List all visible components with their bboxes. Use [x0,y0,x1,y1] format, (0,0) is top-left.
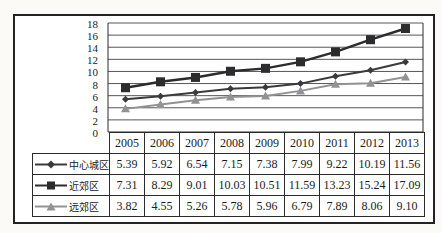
y-axis-tick-label: 2 [60,116,98,127]
scanned-chart-page: 181614121086420 200520062007200820092010… [0,0,442,233]
table-corner-blank [33,133,110,154]
value-cell: 7.15 [215,154,250,175]
year-header-cell: 2008 [215,133,250,154]
diamond-marker-icon [122,96,129,103]
square-marker-icon [366,35,375,44]
value-cell: 4.55 [145,196,180,217]
diamond-marker-icon [332,73,339,80]
y-axis-tick-label: 4 [60,104,98,115]
value-cell: 11.59 [285,175,320,196]
year-header-cell: 2005 [110,133,145,154]
value-cell: 6.79 [285,196,320,217]
value-cell: 15.24 [355,175,390,196]
triangle-legend-icon [35,201,67,212]
diamond-marker-icon [192,89,199,96]
y-axis-tick-label: 8 [60,80,98,91]
diamond-marker-icon [47,160,55,168]
square-marker-icon [121,83,130,92]
square-marker-icon [296,57,305,66]
y-axis-tick-label: 18 [60,19,98,30]
value-cell: 17.09 [390,175,425,196]
square-legend-icon [35,180,67,191]
value-cell: 3.82 [110,196,145,217]
diamond-marker-icon [157,93,164,100]
value-cell: 6.54 [180,154,215,175]
value-cell: 8.06 [355,196,390,217]
value-cell: 5.39 [110,154,145,175]
square-marker-icon [156,77,165,86]
series-line-1 [126,29,406,88]
value-cell: 9.01 [180,175,215,196]
value-cell: 13.23 [320,175,355,196]
year-header-cell: 2011 [320,133,355,154]
value-cell: 5.78 [215,196,250,217]
diamond-marker-icon [262,84,269,91]
square-marker-icon [401,24,410,33]
series-name-label: 远郊区 [69,199,99,214]
legend-key-cell: 远郊区 [33,196,110,217]
year-header-cell: 2013 [390,133,425,154]
value-cell: 10.51 [250,175,285,196]
year-header-cell: 2012 [355,133,390,154]
series-name-label: 中心城区 [69,157,109,172]
value-cell: 10.19 [355,154,390,175]
y-axis-tick-label: 12 [60,55,98,66]
legend-key-cell: 近郊区 [33,175,110,196]
triangle-marker-icon [401,72,410,80]
diamond-legend-icon [35,159,67,170]
year-header-cell: 2006 [145,133,180,154]
value-cell: 7.89 [320,196,355,217]
value-cell: 9.10 [390,196,425,217]
legend-key-cell: 中心城区 [33,154,110,175]
value-cell: 7.38 [250,154,285,175]
value-cell: 8.29 [145,175,180,196]
diamond-marker-icon [227,85,234,92]
year-header-cell: 2007 [180,133,215,154]
diamond-marker-icon [297,80,304,87]
year-header-cell: 2009 [250,133,285,154]
value-cell: 5.26 [180,196,215,217]
value-cell: 5.96 [250,196,285,217]
year-header-cell: 2010 [285,133,320,154]
y-axis-tick-label: 14 [60,43,98,54]
y-axis-tick-label: 6 [60,92,98,103]
value-cell: 5.92 [145,154,180,175]
value-cell: 9.22 [320,154,355,175]
value-cell: 7.31 [110,175,145,196]
diamond-marker-icon [367,67,374,74]
square-marker-icon [47,181,55,189]
value-cell: 11.56 [390,154,425,175]
series-name-label: 近郊区 [69,178,99,193]
value-cell: 7.99 [285,154,320,175]
square-marker-icon [191,73,200,82]
square-marker-icon [261,64,270,73]
chart-data-table: 200520062007200820092010201120122013中心城区… [32,132,425,217]
square-marker-icon [226,67,235,76]
y-axis-tick-label: 16 [60,31,98,42]
y-axis-tick-label: 10 [60,67,98,78]
value-cell: 10.03 [215,175,250,196]
square-marker-icon [331,47,340,56]
